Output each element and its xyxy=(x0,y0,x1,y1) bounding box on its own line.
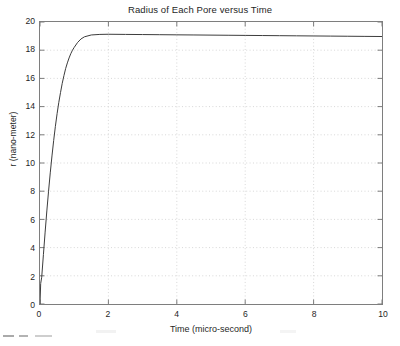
data-curve xyxy=(40,22,382,304)
plot-area xyxy=(39,21,383,305)
x-axis-ticks: 0246810 xyxy=(39,309,383,323)
y-axis-label: r (nano-meter) xyxy=(8,79,18,199)
x-tick-label: 8 xyxy=(294,309,334,319)
x-axis-label: Time (micro-second) xyxy=(39,324,383,334)
scan-artifact-mark xyxy=(3,335,14,337)
x-tick-label: 0 xyxy=(19,309,59,319)
x-tick-label: 2 xyxy=(88,309,128,319)
chart-title: Radius of Each Pore versus Time xyxy=(0,4,400,15)
x-tick-label: 10 xyxy=(363,309,400,319)
y-tick-label: 20 xyxy=(5,16,35,26)
y-tick-label: 18 xyxy=(5,44,35,54)
y-tick-label: 6 xyxy=(5,215,35,225)
scan-artifact-mark xyxy=(35,335,52,337)
x-tick-label: 6 xyxy=(225,309,265,319)
chart-figure: Radius of Each Pore versus Time 02468101… xyxy=(0,0,400,346)
y-tick-label: 4 xyxy=(5,243,35,253)
x-tick-label: 4 xyxy=(157,309,197,319)
y-tick-label: 2 xyxy=(5,272,35,282)
scan-artifact-mark xyxy=(19,335,28,337)
